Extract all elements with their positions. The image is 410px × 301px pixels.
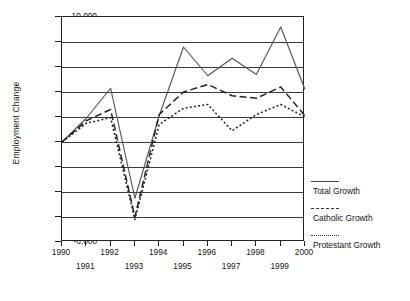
legend-swatch-dashed-line-icon [311,208,339,209]
legend-swatch-dotted-line-icon [311,235,339,236]
x-axis-tick-mark [183,241,184,246]
x-axis-tick-mark [134,241,135,246]
legend-item: Protestant Growth [311,232,410,259]
series-lines [62,17,305,242]
chart-legend: Total GrowthCatholic GrowthProtestant Gr… [311,178,410,259]
x-axis-tick-label: 1998 [238,247,272,257]
plot-area [61,16,304,241]
x-axis-tick-mark [61,241,62,246]
x-axis-tick-mark [255,241,256,246]
x-axis-tick-label: 1994 [141,247,175,257]
x-axis-tick-label: 1991 [68,261,102,271]
x-axis-tick-label: 1993 [117,261,151,271]
y-axis-title: Employment Change [11,63,21,183]
legend-item: Catholic Growth [311,205,410,232]
x-axis-tick-mark [280,241,281,246]
legend-item: Total Growth [311,178,410,205]
x-axis-tick-mark [231,241,232,246]
series-line-catholic-growth [62,85,305,218]
x-axis-tick-mark [110,241,111,246]
employment-change-chart: Employment Change 10,0008,0006,0004,0002… [0,0,410,301]
x-axis-tick-label: 1990 [44,247,78,257]
series-line-total-growth [62,27,305,198]
x-axis-tick-label: 1999 [263,261,297,271]
legend-swatch-solid-line-icon [311,181,339,182]
legend-label: Total Growth [313,186,360,196]
x-axis-tick-mark [85,241,86,246]
x-axis-tick-mark [304,241,305,246]
legend-label: Catholic Growth [313,213,373,223]
x-axis-tick-label: 1995 [166,261,200,271]
x-axis-tick-mark [207,241,208,246]
x-axis-tick-mark [158,241,159,246]
legend-label: Protestant Growth [313,240,381,250]
x-axis-tick-label: 1997 [214,261,248,271]
series-line-protestant-growth [62,105,305,220]
x-axis-tick-label: 1996 [190,247,224,257]
x-axis-tick-label: 1992 [93,247,127,257]
